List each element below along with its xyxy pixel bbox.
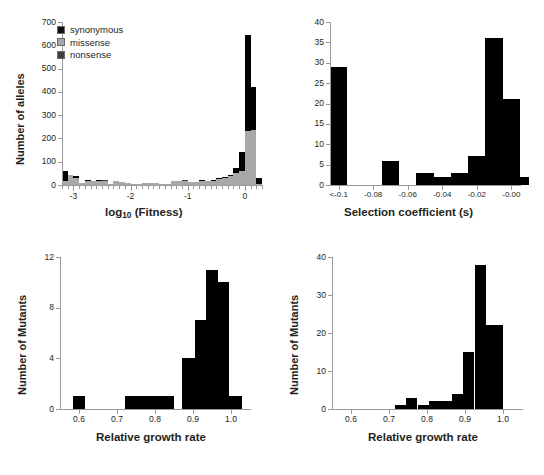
- x-minor-tick: [102, 186, 103, 189]
- y-tick-mark: [56, 358, 60, 359]
- histogram-bar: [206, 270, 217, 409]
- x-minor-tick: [233, 186, 234, 189]
- y-tick-label: 10: [290, 140, 324, 149]
- y-tick-label: 40: [292, 253, 326, 262]
- x-axis-title-growth-right: Relative growth rate: [368, 431, 478, 444]
- panel-growth-left: 04812 0.60.70.80.91.0 Number of Mutants …: [0, 235, 272, 475]
- x-minor-tick: [171, 186, 172, 189]
- y-tick-label: 35: [290, 38, 324, 47]
- x-minor-tick: [113, 186, 114, 189]
- legend-item-mis: missense: [57, 38, 123, 48]
- y-axis-line: [60, 257, 61, 409]
- y-tick-label: 25: [290, 79, 324, 88]
- x-minor-tick: [222, 186, 223, 189]
- y-tick-label: 500: [22, 64, 56, 73]
- x-minor-tick: [239, 186, 240, 189]
- y-tick-mark: [326, 144, 330, 145]
- y-tick-label: 600: [22, 41, 56, 50]
- y-tick-mark: [328, 257, 332, 258]
- panel-selection: 0510152025303540 <-0.1-0.08-0.06-0.04-0.…: [272, 0, 544, 235]
- y-tick-mark: [326, 165, 330, 166]
- x-tick-label: 0.8: [137, 415, 173, 424]
- y-axis-title-growth-left: Number of Mutants: [16, 295, 28, 395]
- legend-swatch-mis: [57, 38, 65, 46]
- x-minor-tick: [131, 186, 132, 189]
- bar-segment-synonymous: [256, 178, 262, 184]
- y-tick-mark: [328, 409, 332, 410]
- x-tick-label: 0.7: [371, 415, 407, 424]
- bars-growth-right: [332, 257, 522, 409]
- x-minor-tick: [188, 186, 189, 189]
- x-minor-tick: [153, 186, 154, 189]
- bar-segment-nonsense: [102, 180, 108, 181]
- y-tick-label: 300: [22, 111, 56, 120]
- x-minor-tick: [182, 186, 183, 189]
- x-tick-label: -0.06: [389, 191, 427, 199]
- x-minor-tick: [199, 186, 200, 189]
- y-tick-mark: [326, 104, 330, 105]
- y-tick-mark: [56, 308, 60, 309]
- histogram-bar: [429, 401, 440, 409]
- bar-segment-nonsense: [182, 180, 188, 181]
- y-tick-mark: [326, 22, 330, 23]
- y-tick-label: 40: [290, 18, 324, 27]
- x-tick-label: -0.04: [423, 191, 461, 199]
- x-axis-title-selection: Selection coefficient (s): [344, 206, 473, 219]
- y-tick-label: 100: [22, 157, 56, 166]
- y-tick-mark: [58, 22, 62, 23]
- x-minor-tick: [96, 186, 97, 189]
- x-minor-tick: [216, 186, 217, 189]
- histogram-bar: [229, 396, 242, 409]
- x-minor-tick: [262, 186, 263, 189]
- x-axis-title-prefix: log: [105, 206, 122, 218]
- histogram-bar: [218, 282, 229, 409]
- histogram-bar: [511, 177, 528, 185]
- x-minor-tick: [73, 186, 74, 189]
- y-tick-mark: [328, 295, 332, 296]
- legend-item-non: nonsense: [57, 50, 123, 60]
- histogram-bar: [440, 401, 451, 409]
- y-tick-mark: [326, 63, 330, 64]
- y-tick-mark: [56, 409, 60, 410]
- x-minor-tick: [142, 186, 143, 189]
- legend-item-syn: synonymous: [57, 25, 123, 35]
- y-axis-line: [332, 257, 333, 409]
- y-tick-label: 0: [22, 181, 56, 190]
- histogram-bar: [468, 156, 485, 185]
- panel-growth-right: 010203040 0.60.70.80.91.0 Number of Muta…: [272, 235, 544, 475]
- legend-swatch-syn: [57, 26, 65, 34]
- histogram-bar: [195, 320, 206, 409]
- histogram-bar: [452, 394, 463, 409]
- legend-label-non: nonsense: [70, 50, 111, 60]
- x-tick-label: -0.02: [458, 191, 496, 199]
- y-tick-mark: [58, 162, 62, 163]
- x-minor-tick: [68, 186, 69, 189]
- bar-segment-synonymous: [251, 87, 257, 130]
- plot-area-growth-right: [332, 257, 522, 409]
- x-tick-label: -2: [113, 192, 149, 201]
- x-minor-tick: [245, 186, 246, 189]
- bar-segment-synonymous: [73, 176, 79, 178]
- y-axis-line: [330, 22, 331, 185]
- histogram-bar: [485, 38, 502, 185]
- x-minor-tick: [91, 186, 92, 189]
- x-tick-label: <-0.1: [320, 191, 358, 199]
- x-axis-title-fitness: log10 (Fitness): [105, 206, 183, 220]
- y-tick-mark: [326, 124, 330, 125]
- x-tick-label: 1.0: [213, 415, 249, 424]
- x-minor-tick: [148, 186, 149, 189]
- x-minor-tick: [228, 186, 229, 189]
- plot-area-selection: [330, 22, 520, 185]
- legend-label-syn: synonymous: [70, 25, 123, 35]
- histogram-bar: [251, 87, 257, 185]
- y-tick-label: 400: [22, 87, 56, 96]
- x-minor-tick: [256, 186, 257, 189]
- x-minor-tick: [159, 186, 160, 189]
- y-tick-mark: [58, 69, 62, 70]
- histogram-bar: [463, 352, 474, 409]
- y-tick-mark: [328, 371, 332, 372]
- plot-area-growth-left: [60, 257, 250, 409]
- x-minor-tick: [165, 186, 166, 189]
- y-tick-label: 0: [20, 405, 54, 414]
- x-minor-tick: [193, 186, 194, 189]
